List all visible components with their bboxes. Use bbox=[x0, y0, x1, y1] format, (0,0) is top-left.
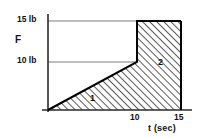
y-axis-label: F bbox=[15, 34, 21, 45]
y-tick-label-10lb: 10 lb bbox=[17, 55, 36, 65]
region-one-label: 1 bbox=[90, 93, 95, 103]
x-tick-label-15: 15 bbox=[174, 112, 183, 122]
x-tick-label-10: 10 bbox=[130, 112, 139, 122]
x-axis-label: t (sec) bbox=[148, 123, 176, 133]
force-time-chart: F t (sec) 15 lb 10 lb 10 15 1 2 bbox=[0, 0, 210, 138]
y-tick-label-15lb: 15 lb bbox=[17, 14, 36, 24]
region-two-label: 2 bbox=[158, 57, 163, 67]
